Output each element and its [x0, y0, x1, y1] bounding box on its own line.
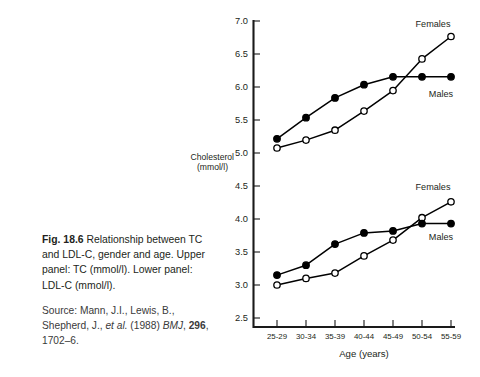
figure-number: Fig. 18.6: [42, 234, 84, 245]
lower-panel-series-males: [274, 220, 455, 278]
line-lower-females: [277, 202, 451, 285]
x-tick-label: 50-54: [412, 332, 433, 341]
y-tick-label: 2.5: [235, 313, 248, 323]
data-point: [390, 74, 397, 81]
y-tick-label: 5.0: [235, 148, 248, 158]
y-tick-label: 3.5: [235, 247, 248, 257]
data-point: [361, 108, 367, 114]
data-point: [274, 145, 280, 151]
y-axis-title-line2: (mmol/l): [197, 162, 228, 172]
upper-panel-series-females: [274, 33, 454, 151]
y-tick-label: 3.0: [235, 280, 248, 290]
lower-panel-series-females: [274, 199, 454, 289]
data-point: [448, 220, 455, 227]
y-tick-label: 7.0: [235, 16, 248, 26]
series-label-lower-males: Males: [429, 232, 454, 242]
data-point: [390, 87, 396, 93]
x-axis-title: Age (years): [339, 348, 389, 359]
data-point: [390, 228, 397, 235]
line-upper-females: [277, 37, 451, 149]
data-point: [274, 272, 281, 279]
series-label-upper-females: Females: [416, 19, 451, 29]
data-point: [303, 262, 310, 269]
data-point: [419, 56, 425, 62]
data-point: [361, 253, 367, 259]
data-point: [303, 114, 310, 121]
data-point: [390, 237, 396, 243]
cholesterol-age-line-chart: 7.0 6.5 6.0 5.5 5.0 4.5 4.0 3.5 3.0 2.5 …: [165, 0, 480, 377]
x-tick-label: 35-39: [325, 332, 346, 341]
y-tick-label: 6.5: [235, 49, 248, 59]
y-tick-label: 6.0: [235, 82, 248, 92]
x-tick-label: 55-59: [441, 332, 462, 341]
source-etal: et al.: [105, 320, 127, 331]
data-point: [303, 137, 309, 143]
data-point: [332, 95, 339, 102]
x-tick-label: 30-34: [296, 332, 317, 341]
data-point: [448, 74, 455, 81]
source-year: (1988): [128, 320, 163, 331]
y-tick-label: 5.5: [235, 115, 248, 125]
y-axis-tick-labels: 7.0 6.5 6.0 5.5 5.0 4.5 4.0 3.5 3.0 2.5: [235, 16, 248, 323]
series-label-upper-males: Males: [429, 89, 454, 99]
data-point: [419, 74, 426, 81]
x-tick-label: 25-29: [267, 332, 288, 341]
series-label-lower-females: Females: [416, 182, 451, 192]
data-point: [448, 33, 454, 39]
y-tick-label: 4.5: [235, 181, 248, 191]
data-point: [332, 241, 339, 248]
data-point: [274, 136, 281, 143]
data-point: [332, 270, 338, 276]
data-point: [448, 199, 454, 205]
y-axis-ticks: [254, 21, 260, 318]
data-point: [361, 230, 368, 237]
y-tick-label: 4.0: [235, 214, 248, 224]
x-tick-label: 40-44: [354, 332, 375, 341]
y-axis-title-line1: Cholesterol: [191, 152, 235, 162]
y-axis-title: Cholesterol (mmol/l): [191, 152, 235, 172]
data-point: [332, 127, 338, 133]
chart-figure: 7.0 6.5 6.0 5.5 5.0 4.5 4.0 3.5 3.0 2.5 …: [165, 0, 480, 377]
x-axis-tick-labels: 25-29 30-34 35-39 40-44 45-49 50-54 55-5…: [267, 332, 462, 341]
x-tick-label: 45-49: [383, 332, 404, 341]
data-point: [361, 81, 368, 88]
data-point: [419, 220, 426, 227]
data-point: [303, 275, 309, 281]
data-point: [274, 282, 280, 288]
